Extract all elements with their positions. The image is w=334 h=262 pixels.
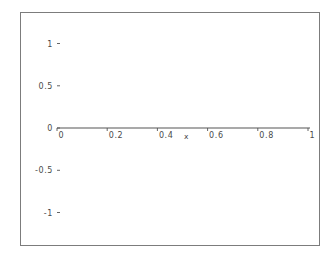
y-tick-label: -1 xyxy=(44,209,53,218)
x-axis: 00.20.40.60.81 -1-0.50.510 x xyxy=(35,40,315,218)
x-tick-label: 0 xyxy=(59,131,65,140)
x-tick-label: 0.8 xyxy=(259,131,274,140)
x-tick-label: 0.6 xyxy=(209,131,224,140)
plot-canvas: 00.20.40.60.81 -1-0.50.510 x xyxy=(0,0,334,262)
y-tick-label: -0.5 xyxy=(35,166,53,175)
x-tick-label: 0.2 xyxy=(109,131,124,140)
y-tick-label: 0.5 xyxy=(38,82,53,91)
chart-figure: 00.20.40.60.81 -1-0.50.510 x xyxy=(0,0,334,262)
y-tick-label-zero: 0 xyxy=(47,124,53,133)
x-tick-label: 0.4 xyxy=(159,131,174,140)
y-tick-label: 1 xyxy=(47,40,53,49)
y-axis-ticks: -1-0.50.510 xyxy=(35,40,60,218)
x-axis-label: x xyxy=(184,132,189,141)
x-tick-label: 1 xyxy=(310,131,316,140)
